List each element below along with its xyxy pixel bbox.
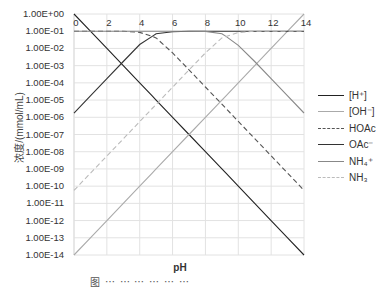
- y-tick-label: 1.00E-02: [2, 43, 64, 53]
- legend-swatch-icon: [318, 111, 344, 112]
- x-tick-label: 8: [205, 18, 210, 28]
- legend-label: [OH⁻]: [349, 106, 375, 117]
- legend-item: HOAc: [318, 120, 376, 137]
- series-line: [74, 31, 304, 190]
- legend-label: NH₄⁺: [349, 156, 373, 167]
- y-tick-label: 1.00E-10: [2, 181, 64, 191]
- x-tick-label: 4: [139, 18, 144, 28]
- legend: [H⁺][OH⁻]HOAcOAc⁻NH₄⁺NH₃: [318, 87, 376, 186]
- y-tick-label: 1.00E-03: [2, 61, 64, 71]
- series-line: [74, 31, 304, 113]
- y-tick-label: 1.00E+00: [2, 9, 64, 19]
- series-line: [74, 31, 304, 113]
- x-tick-label: 14: [301, 18, 312, 28]
- legend-item: OAc⁻: [318, 137, 376, 154]
- x-axis-label: pH: [173, 262, 186, 273]
- legend-item: [H⁺]: [318, 87, 376, 104]
- x-tick-label: 12: [268, 18, 279, 28]
- y-tick-label: 1.00E-12: [2, 216, 64, 226]
- y-tick-label: 1.00E-11: [2, 198, 64, 208]
- legend-label: HOAc: [349, 123, 376, 134]
- x-tick-label: 0: [73, 18, 78, 28]
- x-tick-label: 2: [106, 18, 111, 28]
- legend-item: [OH⁻]: [318, 104, 376, 121]
- legend-label: [H⁺]: [349, 90, 367, 101]
- legend-swatch-icon: [318, 161, 344, 162]
- y-tick-label: 1.00E-14: [2, 250, 64, 260]
- legend-label: NH₃: [349, 172, 368, 183]
- legend-swatch-icon: [318, 95, 344, 96]
- legend-item: NH₃: [318, 170, 376, 187]
- series-line: [74, 31, 304, 190]
- legend-swatch-icon: [318, 128, 344, 129]
- y-tick-label: 1.00E-13: [2, 233, 64, 243]
- legend-label: OAc⁻: [349, 139, 373, 150]
- x-tick-label: 6: [172, 18, 177, 28]
- legend-swatch-icon: [318, 144, 344, 145]
- y-axis-label: 浓度/(mmol/mL): [11, 88, 26, 168]
- y-tick-label: 1.00E-01: [2, 26, 64, 36]
- x-tick-label: 10: [235, 18, 246, 28]
- y-tick-label: 1.00E-04: [2, 78, 64, 88]
- legend-swatch-icon: [318, 177, 344, 178]
- legend-item: NH₄⁺: [318, 153, 376, 170]
- figure-caption: 图 ⋯ ⋯ ⋯ ⋯ ⋯ ⋯: [90, 274, 190, 289]
